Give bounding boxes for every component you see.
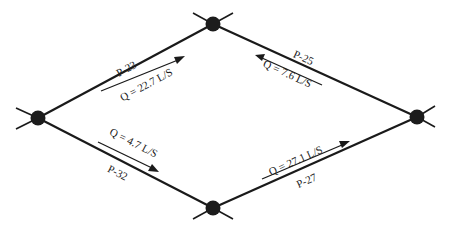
junction-node-top bbox=[206, 17, 221, 32]
pipe-p-25 bbox=[213, 24, 417, 117]
flow-label-p-32: Q = 4.7 L/S bbox=[108, 125, 160, 159]
pipe-network-diagram: P-23 Q = 22.7 L/S P-25 Q = 7.6 L/S Q = 4… bbox=[0, 0, 449, 233]
junction-node-right bbox=[410, 110, 425, 125]
pipe-p-27 bbox=[213, 117, 417, 208]
pipe-label-p-27: P-27 bbox=[294, 170, 318, 190]
junction-node-left bbox=[31, 111, 46, 126]
pipe-label-p-23: P-23 bbox=[114, 58, 138, 79]
junction-node-bottom bbox=[206, 201, 221, 216]
pipe-label-p-32: P-32 bbox=[106, 162, 130, 182]
